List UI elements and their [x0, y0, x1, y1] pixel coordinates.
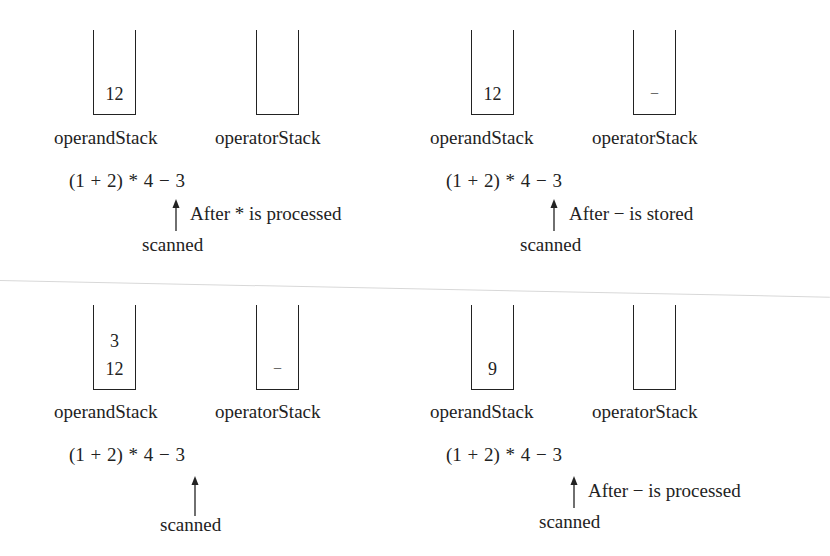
up-arrow-icon	[548, 199, 560, 231]
operand-stack: 3 12	[93, 305, 136, 390]
stack-item: −	[650, 80, 659, 108]
operand-stack-label: operandStack	[54, 401, 157, 423]
operator-stack: −	[256, 305, 299, 390]
expression: (1 + 2) * 4 − 3	[446, 170, 562, 192]
operand-stack: 9	[471, 305, 514, 390]
scanned-label: scanned	[520, 234, 581, 256]
operator-stack	[256, 30, 299, 115]
step-note: After * is processed	[190, 203, 341, 225]
stack-item: −	[273, 355, 282, 383]
stack-item: 3	[110, 327, 119, 355]
expression: (1 + 2) * 4 − 3	[446, 444, 562, 466]
panel-bottom-right: 9 operandStack operatorStack (1 + 2) * 4…	[402, 278, 804, 556]
operand-stack-label: operandStack	[430, 401, 533, 423]
stack-item: 12	[106, 355, 124, 383]
up-arrow-icon	[170, 199, 182, 231]
operator-stack	[633, 305, 676, 390]
expression: (1 + 2) * 4 − 3	[69, 170, 185, 192]
step-note: After − is stored	[569, 203, 693, 225]
operand-stack: 12	[471, 30, 514, 115]
up-arrow-icon	[189, 476, 201, 516]
stack-item: 12	[484, 80, 502, 108]
stack-item: 9	[488, 355, 497, 383]
operator-stack-label: operatorStack	[592, 401, 698, 423]
operand-stack: 12	[93, 30, 136, 115]
operand-stack-label: operandStack	[430, 127, 533, 149]
expression: (1 + 2) * 4 − 3	[69, 444, 185, 466]
operator-stack-label: operatorStack	[215, 401, 321, 423]
scanned-label: scanned	[539, 511, 600, 533]
panel-bottom-left: 3 12 − operandStack operatorStack (1 + 2…	[0, 278, 402, 556]
step-note: After − is processed	[588, 480, 741, 502]
scanned-label: scanned	[160, 514, 221, 536]
operand-stack-label: operandStack	[54, 127, 157, 149]
operator-stack-label: operatorStack	[592, 127, 698, 149]
panel-top-right: 12 − operandStack operatorStack (1 + 2) …	[402, 0, 804, 278]
scanned-label: scanned	[142, 234, 203, 256]
operator-stack-label: operatorStack	[215, 127, 321, 149]
operator-stack: −	[633, 30, 676, 115]
stack-item: 12	[106, 80, 124, 108]
up-arrow-icon	[568, 476, 580, 508]
panel-top-left: 12 operandStack operatorStack (1 + 2) * …	[0, 0, 402, 278]
